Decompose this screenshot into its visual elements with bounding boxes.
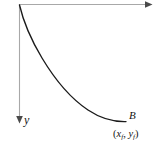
horizontal-axis-arrowhead-icon: [145, 1, 153, 8]
brachistochrone-path: [20, 5, 127, 122]
endpoint-y-subscript: f: [133, 133, 135, 141]
vertical-axis: [16, 4, 23, 124]
y-axis-label: y: [24, 114, 29, 126]
horizontal-axis: [19, 1, 153, 8]
endpoint-coordinates-label: (xf, yf): [113, 129, 139, 140]
endpoint-x-subscript: f: [121, 133, 123, 141]
close-paren: ): [135, 128, 139, 139]
point-b-label: B: [129, 110, 136, 121]
vertical-axis-arrowhead-icon: [16, 116, 23, 124]
brachistochrone-figure: y B (xf, yf): [0, 0, 155, 154]
